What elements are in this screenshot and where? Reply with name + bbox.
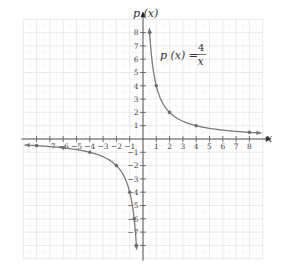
- formula-lhs: p (x) =: [160, 49, 198, 62]
- y-tick-label: 5: [134, 68, 139, 77]
- y-tick-label: 7: [134, 42, 139, 51]
- data-point: [168, 111, 172, 115]
- x-tick-label: 4: [194, 142, 199, 151]
- x-tick-label: 6: [220, 142, 225, 151]
- x-tick-label: −4: [84, 142, 95, 151]
- data-point: [61, 146, 65, 150]
- y-tick-label: 1: [134, 121, 139, 130]
- data-point: [88, 151, 92, 155]
- formula-numerator: 4: [198, 42, 204, 53]
- x-tick-label: 2: [167, 142, 172, 151]
- data-point: [155, 84, 159, 88]
- curve-branch: [25, 145, 137, 250]
- data-point: [132, 217, 136, 221]
- y-tick-label: −3: [127, 175, 138, 184]
- data-point: [194, 124, 198, 128]
- y-tick-label: −1: [127, 148, 138, 157]
- y-tick-label: 3: [134, 95, 139, 104]
- x-tick-label: 8: [247, 142, 252, 151]
- reciprocal-function-graph: −7−6−5−4−3−2−112345678 87654321−1−2−3−4−…: [0, 0, 287, 266]
- curve-arrow-icon: [256, 131, 261, 135]
- y-tick-label: 2: [134, 108, 139, 117]
- x-tick-label: −2: [111, 142, 122, 151]
- y-tick-label: 6: [134, 55, 139, 64]
- y-tick-label: −7: [127, 228, 138, 237]
- curve-arrow-icon: [25, 143, 30, 147]
- y-tick-label: 4: [134, 82, 139, 91]
- x-tick-label: 7: [234, 142, 239, 151]
- x-tick-label: 3: [181, 142, 186, 151]
- y-tick-label: −2: [127, 161, 138, 170]
- y-axis-title: p (x): [133, 7, 158, 20]
- x-tick-label: 1: [154, 142, 159, 151]
- data-point: [135, 244, 139, 248]
- data-point: [128, 190, 132, 194]
- axes: [21, 11, 271, 260]
- data-point: [115, 164, 119, 168]
- x-tick-label: 5: [207, 142, 212, 151]
- formula-denominator: x: [198, 55, 205, 68]
- data-point: [248, 131, 252, 135]
- curve-branch: [149, 28, 261, 133]
- x-tick-label: −3: [98, 142, 109, 151]
- data-point: [35, 144, 39, 148]
- x-axis-title: x: [266, 132, 273, 145]
- data-point: [148, 31, 152, 35]
- y-tick-label: 8: [134, 28, 139, 37]
